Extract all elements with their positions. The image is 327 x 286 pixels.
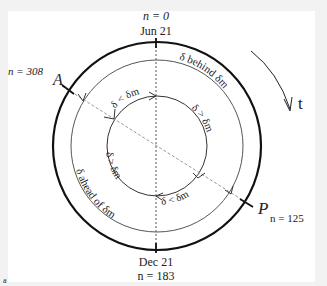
middle-upper-label: δ behind δm [178,50,231,91]
perihelion-n-label: n = 125 [270,212,304,224]
inner-lower-right-label: δ < δm [161,188,190,207]
perihelion-letter: P [257,199,268,218]
inner-left-label: δ > δm [104,151,124,180]
aphelion-letter: A [52,71,63,88]
inner-right-label: δ > δm [190,102,216,133]
top-date-label: Jun 21 [140,24,172,38]
inner-upper-left-label: δ < δm [108,85,140,110]
bottom-date-label: Dec 21 [139,255,173,269]
aphelion-n-label: n = 308 [8,65,43,77]
time-label: t [298,94,303,113]
orbit-diagram: t n = 0 Jun 21 Dec 21 n = 183 n = 308 A … [0,0,327,286]
bottom-n-label: n = 183 [138,269,175,283]
panel-letter: a [3,276,7,285]
top-n-label: n = 0 [143,9,169,23]
